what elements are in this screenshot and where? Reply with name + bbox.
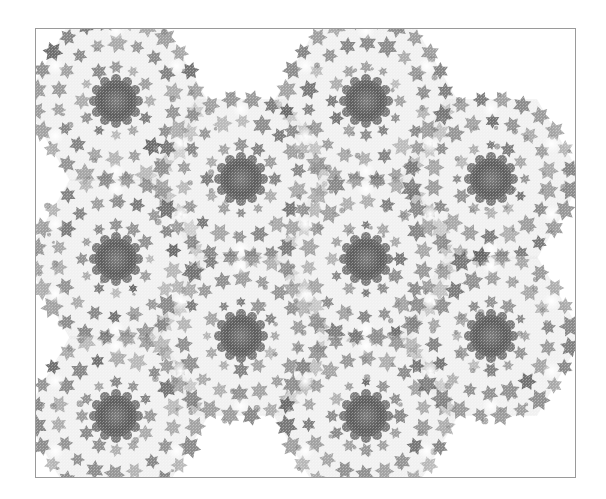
image-frame xyxy=(35,28,576,478)
fractal-tiling-pattern xyxy=(36,29,576,478)
dither-overlay xyxy=(36,29,576,478)
